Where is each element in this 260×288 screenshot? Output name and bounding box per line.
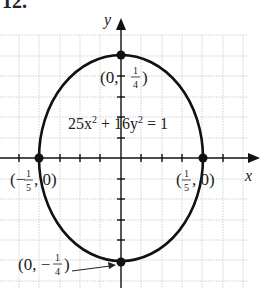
svg-text:1: 1 (133, 65, 138, 76)
equation-label: 25x2 + 16y2 = 1 (68, 114, 168, 133)
label-bottom-vertex: (0, − 1 4 ) (18, 252, 70, 277)
svg-text:(: ( (176, 170, 182, 189)
svg-text:1: 1 (184, 168, 189, 179)
svg-text:(−: (− (10, 170, 25, 189)
svg-text:(0, −: (0, − (18, 255, 50, 274)
svg-text:1: 1 (55, 252, 60, 263)
svg-text:, 0): , 0) (34, 170, 57, 189)
pointer-line (72, 266, 110, 271)
x-axis-arrow-icon (248, 153, 260, 163)
svg-text:): ) (64, 255, 70, 274)
vertex-bottom (117, 258, 126, 267)
label-top-vertex: (0, 1 4 ) (100, 65, 148, 90)
x-axis-label: x (244, 167, 252, 184)
svg-text:, 0): , 0) (192, 170, 215, 189)
vertex-left (35, 154, 44, 163)
svg-text:(0,: (0, (100, 68, 118, 87)
svg-text:4: 4 (55, 266, 60, 277)
svg-text:4: 4 (133, 79, 138, 90)
y-axis-label: y (102, 11, 112, 29)
svg-text:5: 5 (26, 182, 31, 193)
svg-text:): ) (142, 68, 148, 87)
svg-text:5: 5 (184, 182, 189, 193)
svg-text:1: 1 (26, 168, 31, 179)
problem-number: 12. (2, 0, 27, 12)
ellipse-graph: 12. (0, 0, 260, 288)
vertex-right (199, 154, 208, 163)
y-axis-arrow-icon (116, 18, 126, 30)
label-left-vertex: (− 1 5 , 0) (10, 168, 57, 193)
vertex-top (117, 51, 126, 60)
pointer-arrow-icon (108, 262, 116, 269)
